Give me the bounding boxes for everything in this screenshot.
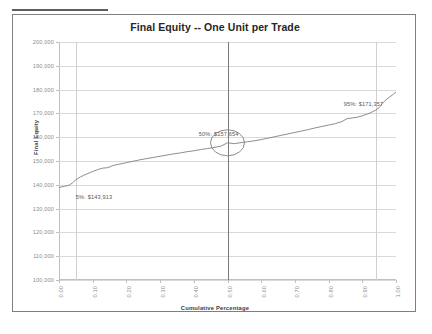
y-tick-label: 100,000 xyxy=(33,277,54,283)
x-tick-label: 0.90 xyxy=(362,286,368,298)
x-tick-label: 1.00 xyxy=(395,286,401,298)
series-line-final-equity xyxy=(59,42,396,280)
x-tick-mark xyxy=(329,280,330,283)
y-tick-label: 130,000 xyxy=(33,206,54,212)
x-tick-mark xyxy=(362,280,363,283)
chart-frame: Final Equity -- One Unit per Trade Final… xyxy=(12,14,416,312)
x-tick-mark xyxy=(160,280,161,283)
x-axis-title: Cumulative Percentage xyxy=(13,305,417,311)
x-tick-mark xyxy=(295,280,296,283)
x-tick-label: 0.40 xyxy=(193,286,199,298)
x-tick-label: 0.10 xyxy=(92,286,98,298)
y-tick-label: 110,000 xyxy=(33,253,54,259)
y-tick-label: 140,000 xyxy=(33,182,54,188)
x-tick-label: 0.00 xyxy=(58,286,64,298)
p95-annotation: 95%: $171,357 xyxy=(344,101,384,107)
x-tick-mark xyxy=(396,280,397,283)
x-tick-mark xyxy=(261,280,262,283)
plot-area: 100,000110,000120,000130,000140,000150,0… xyxy=(59,42,396,280)
cropped-toolbar-rule xyxy=(12,9,108,11)
y-tick-label: 150,000 xyxy=(33,158,54,164)
y-tick-label: 160,000 xyxy=(33,134,54,140)
x-tick-mark xyxy=(194,280,195,283)
y-tick-label: 180,000 xyxy=(33,87,54,93)
x-tick-label: 0.60 xyxy=(261,286,267,298)
x-tick-mark xyxy=(126,280,127,283)
x-tick-mark xyxy=(59,280,60,283)
chart-title: Final Equity -- One Unit per Trade xyxy=(13,21,417,33)
x-tick-label: 0.80 xyxy=(328,286,334,298)
y-tick-label: 200,000 xyxy=(33,39,54,45)
y-tick-label: 120,000 xyxy=(33,229,54,235)
x-tick-label: 0.30 xyxy=(160,286,166,298)
p5-annotation: 5%: $143,913 xyxy=(76,194,112,200)
x-tick-mark xyxy=(93,280,94,283)
x-tick-mark xyxy=(228,280,229,283)
x-tick-label: 0.70 xyxy=(294,286,300,298)
x-tick-label: 0.50 xyxy=(227,286,233,298)
y-tick-label: 190,000 xyxy=(33,63,54,69)
x-tick-label: 0.20 xyxy=(126,286,132,298)
cropped-top-strip xyxy=(0,0,432,11)
p50-annotation: 50%: $157,654 xyxy=(199,131,239,137)
y-tick-label: 170,000 xyxy=(33,110,54,116)
